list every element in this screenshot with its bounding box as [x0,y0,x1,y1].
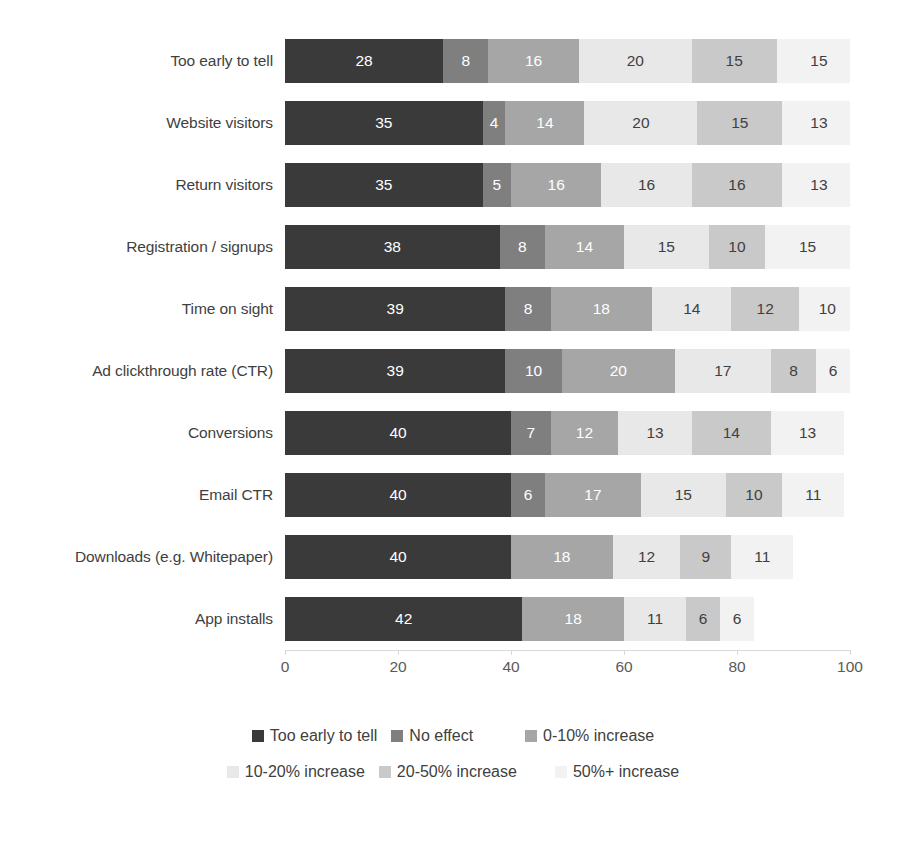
legend-item[interactable]: 0-10% increase [525,728,654,744]
segment-value-label: 15 [726,52,743,70]
segment-value-label: 16 [638,176,655,194]
x-axis: 020406080100 [285,650,850,690]
bar-segment: 15 [624,225,709,269]
segment-value-label: 6 [733,610,742,628]
bar-segment: 18 [522,597,624,641]
legend-label: 0-10% increase [543,728,654,744]
bar-segment: 15 [777,39,850,83]
legend-item[interactable]: 20-50% increase [379,764,517,780]
bar-segment: 16 [488,39,578,83]
bar-segment: 4 [483,101,506,145]
segment-value-label: 6 [699,610,708,628]
legend-item[interactable]: No effect [391,728,473,744]
axis-line [285,650,850,651]
stacked-bar: 28816201515 [285,39,850,83]
segment-value-label: 8 [789,362,798,380]
plot-area: Too early to tell28816201515Website visi… [0,30,906,650]
segment-value-label: 28 [355,52,372,70]
segment-value-label: 11 [754,548,770,566]
legend-item[interactable]: 10-20% increase [227,764,365,780]
category-label: Too early to tell [0,52,285,70]
segment-value-label: 35 [375,114,392,132]
category-label: Conversions [0,424,285,442]
chart-row: Ad clickthrough rate (CTR)3910201786 [0,340,906,402]
segment-value-label: 39 [387,362,404,380]
segment-value-label: 20 [610,362,627,380]
segment-value-label: 15 [731,114,748,132]
segment-value-label: 42 [395,610,412,628]
category-label: Return visitors [0,176,285,194]
bar-segment: 18 [511,535,613,579]
bar-segment: 20 [584,101,697,145]
segment-value-label: 8 [461,52,470,70]
segment-value-label: 15 [799,238,816,256]
legend-label: Too early to tell [270,728,378,744]
segment-value-label: 5 [493,176,502,194]
axis-tick-label: 0 [281,658,290,676]
segment-value-label: 16 [728,176,745,194]
segment-value-label: 12 [757,300,774,318]
segment-value-label: 38 [384,238,401,256]
chart-row: Return visitors35516161613 [0,154,906,216]
segment-value-label: 40 [389,548,406,566]
stacked-bar: 42181166 [285,597,850,641]
bar-segment: 39 [285,287,505,331]
stacked-bar: 35516161613 [285,163,850,207]
segment-value-label: 6 [829,362,838,380]
category-label: Downloads (e.g. Whitepaper) [0,548,285,566]
bar-segment: 6 [816,349,850,393]
segment-value-label: 20 [627,52,644,70]
chart-row: App installs42181166 [0,588,906,650]
legend-item[interactable]: 50%+ increase [555,764,679,780]
bar-segment: 14 [505,101,584,145]
segment-value-label: 15 [658,238,675,256]
bar-segment: 12 [613,535,681,579]
bar-segment: 13 [771,411,844,455]
segment-value-label: 39 [387,300,404,318]
bar-segment: 6 [720,597,754,641]
segment-value-label: 40 [389,486,406,504]
segment-value-label: 10 [745,486,762,504]
segment-value-label: 8 [518,238,527,256]
bar-segment: 8 [443,39,488,83]
segment-value-label: 18 [593,300,610,318]
bar-segment: 12 [551,411,619,455]
bar-segment: 28 [285,39,443,83]
category-label: Ad clickthrough rate (CTR) [0,362,285,380]
stacked-bar: 40617151011 [285,473,850,517]
segment-value-label: 10 [819,300,836,318]
bar-segment: 15 [692,39,777,83]
bar-segment: 8 [505,287,550,331]
bar-segment: 20 [579,39,692,83]
bar-segment: 13 [618,411,691,455]
bar-segment: 17 [675,349,771,393]
bar-segment: 15 [641,473,726,517]
bar-segment: 42 [285,597,522,641]
axis-tick-mark [624,650,625,655]
bar-segment: 40 [285,473,511,517]
axis-tick-label: 20 [389,658,406,676]
chart-row: Email CTR40617151011 [0,464,906,526]
category-label: Website visitors [0,114,285,132]
bar-segment: 13 [782,163,850,207]
bar-segment: 5 [483,163,511,207]
legend-label: No effect [409,728,473,744]
segment-value-label: 18 [565,610,582,628]
bar-segment: 40 [285,535,511,579]
legend-row-1: Too early to tellNo effect0-10% increase [0,718,906,754]
bar-segment: 10 [726,473,783,517]
bar-segment: 7 [511,411,551,455]
bar-segment: 10 [505,349,562,393]
legend-swatch-icon [252,730,264,742]
stacked-bar: 3910201786 [285,349,850,393]
bar-segment: 16 [692,163,782,207]
segment-value-label: 16 [525,52,542,70]
bar-segment: 15 [697,101,782,145]
axis-tick-mark [285,650,286,655]
segment-value-label: 16 [548,176,565,194]
bar-segment: 18 [551,287,653,331]
bar-segment: 8 [771,349,816,393]
legend-item[interactable]: Too early to tell [252,728,378,744]
category-label: App installs [0,610,285,628]
chart-legend: Too early to tellNo effect0-10% increase… [0,718,906,790]
